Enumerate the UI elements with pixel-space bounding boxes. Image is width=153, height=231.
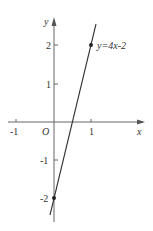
y-tick-label-2: 2 xyxy=(46,40,51,51)
y-tick-label-neg1: -1 xyxy=(40,155,48,166)
function-line xyxy=(50,24,96,215)
x-axis-arrow-icon xyxy=(137,120,145,125)
point-1-2 xyxy=(89,43,93,47)
y-axis-arrow-icon xyxy=(52,17,57,26)
line-graph: -1 1 2 1 -1 -2 x y O y=4x-2 xyxy=(0,0,153,231)
x-tick-label-1: 1 xyxy=(89,126,94,137)
equation-label: y=4x-2 xyxy=(96,40,126,51)
point-0-neg2 xyxy=(52,196,56,200)
y-axis-label: y xyxy=(43,16,49,27)
y-tick-label-neg2: -2 xyxy=(40,193,48,204)
origin-label: O xyxy=(42,126,49,137)
x-axis-label: x xyxy=(136,126,142,137)
x-tick-label-neg1: -1 xyxy=(10,126,18,137)
y-tick-label-1: 1 xyxy=(46,79,51,90)
